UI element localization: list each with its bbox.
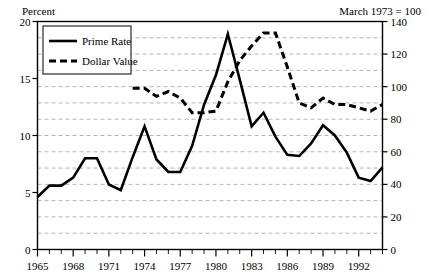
legend-label[interactable]: Dollar Value [82,55,138,67]
y-right-tick-label: 20 [391,211,403,223]
x-tick-label: 1989 [312,260,335,272]
x-tick-label: 1983 [241,260,264,272]
x-tick-label: 1977 [169,260,192,272]
y-right-tick-label: 0 [391,244,397,256]
x-axis-ticks [38,250,383,257]
x-tick-label: 1992 [348,260,370,272]
y-right-tick-label: 120 [391,48,408,60]
chart-root: Percent March 1973 = 100 196519681971197… [0,0,427,276]
y-left-tick-label: 10 [20,130,32,142]
y-axis-right-ticks [383,22,388,250]
y-left-tick-label: 15 [20,73,32,85]
y-axis-left-ticks [33,22,38,250]
legend-label[interactable]: Prime Rate [82,35,131,47]
line-chart-plot: 1965196819711974197719801983198619891992… [0,0,427,276]
y-right-tick-label: 60 [391,146,403,158]
x-axis-tick-labels: 1965196819711974197719801983198619891992 [27,260,370,272]
y-right-tick-label: 140 [391,16,408,28]
x-tick-label: 1965 [27,260,50,272]
y-right-tick-label: 80 [391,113,403,125]
y-left-tick-label: 0 [25,244,31,256]
x-tick-label: 1968 [62,260,85,272]
y-axis-left-tick-labels: 05101520 [20,16,32,256]
x-tick-label: 1986 [276,260,299,272]
y-left-tick-label: 20 [20,16,32,28]
y-left-tick-label: 5 [25,187,31,199]
x-tick-label: 1971 [98,260,120,272]
x-tick-label: 1980 [205,260,228,272]
y-axis-right-tick-labels: 020406080100120140 [391,16,408,256]
series-line-dollar-value [133,33,383,113]
chart-legend[interactable]: Prime RateDollar Value [43,26,138,74]
y-right-tick-label: 100 [391,81,408,93]
x-tick-label: 1974 [134,260,157,272]
y-right-tick-label: 40 [391,178,403,190]
